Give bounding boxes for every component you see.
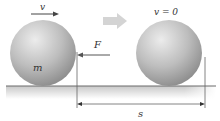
force-label: F (93, 39, 102, 50)
ball-final (136, 20, 202, 86)
force-arrow: F (77, 39, 110, 58)
velocity-arrow: v (31, 2, 59, 17)
block-arrow-right-icon (103, 13, 127, 29)
ball-initial: m (10, 20, 76, 86)
mass-label: m (33, 62, 42, 73)
arrowhead-left-icon (77, 102, 82, 106)
velocity-label: v (40, 2, 45, 12)
arrowhead-right-icon (200, 102, 205, 106)
distance-label: s (138, 108, 143, 119)
ball-final-shape (136, 20, 202, 86)
ball-initial-shape (10, 20, 76, 86)
arrow-left-icon (77, 53, 83, 58)
ground (6, 86, 216, 99)
transition-arrow (103, 13, 127, 29)
diagram-canvas: m v F v = 0 s (0, 0, 220, 121)
final-velocity-label: v = 0 (154, 7, 178, 17)
arrow-right-icon (53, 12, 59, 17)
